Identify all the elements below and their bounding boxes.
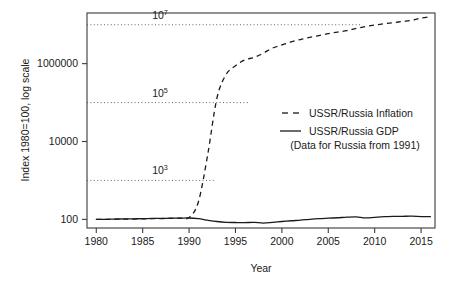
- legend-label-inflation: USSR/Russia Inflation: [309, 107, 413, 119]
- y-axis-title: Index 1980=100, log scale: [19, 58, 31, 181]
- ref-exp-7: 7: [164, 8, 168, 17]
- x-tick-label: 2000: [270, 235, 294, 247]
- y-tick-label: 100: [60, 213, 78, 225]
- x-tick-label: 1985: [131, 235, 155, 247]
- ref-base-5: 10: [152, 87, 164, 99]
- ref-base-7: 10: [152, 9, 164, 21]
- chart-figure: 107 105 103 100100001000000 198019851990…: [0, 0, 451, 288]
- legend-label-gdp: USSR/Russia GDP: [309, 125, 399, 137]
- reference-label-10e3: 103: [152, 163, 168, 176]
- y-tick-label: 1000000: [37, 57, 78, 69]
- ref-exp-5: 5: [164, 86, 168, 95]
- reference-label-10e5: 105: [152, 86, 168, 99]
- y-axis: 100100001000000: [37, 57, 87, 225]
- chart-canvas: 107 105 103 100100001000000 198019851990…: [0, 0, 451, 288]
- x-axis: 19801985199019952000200520102015: [85, 228, 433, 247]
- x-axis-title: Year: [250, 262, 272, 274]
- y-tick-label: 10000: [49, 135, 78, 147]
- ref-base-3: 10: [152, 164, 164, 176]
- x-tick-label: 1995: [224, 235, 248, 247]
- reference-label-10e7: 107: [152, 8, 168, 21]
- x-tick-label: 2005: [317, 235, 341, 247]
- chart-legend: USSR/Russia Inflation USSR/Russia GDP (D…: [280, 107, 420, 151]
- legend-note: (Data for Russia from 1991): [290, 139, 420, 151]
- reference-labels: 107 105 103: [152, 8, 168, 177]
- plot-frame: [87, 13, 435, 228]
- x-tick-label: 1980: [85, 235, 109, 247]
- series-line-gdp: [96, 216, 430, 223]
- x-tick-label: 1990: [177, 235, 201, 247]
- x-tick-label: 2010: [363, 235, 387, 247]
- ref-exp-3: 3: [164, 163, 168, 172]
- reference-gridlines: [87, 25, 361, 181]
- x-tick-label: 2015: [409, 235, 433, 247]
